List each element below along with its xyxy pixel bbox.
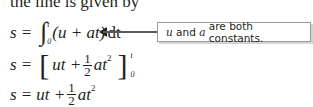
callout-note: u and a are both constants. [157, 22, 311, 42]
fraction-half: 1 2 [83, 53, 92, 78]
right-bracket-icon: ] [117, 50, 127, 80]
integral-sign-icon: ∫ [40, 19, 47, 45]
fraction-half: 1 2 [67, 82, 76, 107]
callout-arrow [103, 31, 157, 33]
term-ut: ut + [52, 55, 81, 75]
exponent: 2 [107, 53, 112, 63]
lhs: s [10, 23, 17, 43]
equation-evaluated: s = [ ut + 1 2 at 2 ] t 0 [10, 50, 134, 80]
equation-result: s = ut + 1 2 at 2 [10, 82, 95, 107]
intro-text: the line is given by [10, 0, 139, 12]
lower-limit: 0 [47, 37, 51, 46]
left-bracket-icon: [ [39, 50, 49, 80]
equals: = [22, 23, 32, 43]
equals: = [22, 55, 32, 75]
lhs: s [10, 55, 17, 75]
term-ut: ut + [36, 85, 65, 105]
term-at: at [94, 55, 107, 75]
integrand: (u + at) [52, 23, 105, 43]
callout-var-u: u [166, 26, 173, 38]
callout-and: and [176, 26, 196, 38]
lhs: s [10, 85, 17, 105]
denominator: 2 [68, 95, 75, 107]
lower-limit: 0 [130, 70, 134, 79]
differential: dt [107, 23, 120, 43]
callout-text: are both constants. [209, 20, 310, 44]
denominator: 2 [84, 66, 91, 78]
integral-limits: t 0 [47, 20, 51, 46]
upper-limit: t [130, 51, 134, 60]
equals: = [22, 85, 32, 105]
upper-limit: t [47, 20, 51, 29]
callout-var-a: a [199, 26, 205, 38]
term-at: at [78, 85, 91, 105]
bracket-limits: t 0 [130, 51, 134, 79]
exponent: 2 [91, 83, 96, 93]
